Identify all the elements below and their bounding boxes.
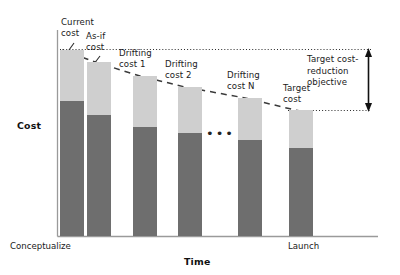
- bar-segment-lower: [133, 127, 157, 236]
- bar-as-if-cost[interactable]: [87, 62, 111, 236]
- bar-segment-lower: [238, 140, 262, 236]
- bar-target-cost[interactable]: [289, 110, 313, 236]
- x-axis-title: Time: [184, 256, 211, 267]
- x-axis-end-label: Launch: [288, 241, 319, 251]
- bar-segment-upper: [178, 87, 202, 133]
- bar-drifting-cost-n[interactable]: [238, 98, 262, 236]
- bar-segment-lower: [289, 148, 313, 236]
- bar-segment-lower: [178, 133, 202, 236]
- bar-segment-lower: [87, 115, 111, 236]
- bar-segment-upper: [60, 50, 84, 101]
- bar-label-as-if-cost: As-if cost: [86, 31, 105, 52]
- chart-canvas: ••• Current cost As-if cost Drifting cos…: [0, 0, 400, 275]
- ellipsis-marker: •••: [206, 126, 235, 141]
- bar-current-cost[interactable]: [60, 50, 84, 236]
- x-axis-start-label: Conceptualize: [10, 241, 71, 251]
- bar-label-drifting-cost-1: Drifting cost 1: [119, 48, 152, 69]
- bar-drifting-cost-1[interactable]: [133, 76, 157, 236]
- bar-segment-upper: [87, 62, 111, 115]
- bar-drifting-cost-2[interactable]: [178, 87, 202, 236]
- bar-segment-upper: [289, 110, 313, 148]
- bar-segment-lower: [60, 101, 84, 236]
- y-axis-title: Cost: [17, 120, 41, 131]
- bar-segment-upper: [238, 98, 262, 140]
- bar-segment-upper: [133, 76, 157, 127]
- bar-label-drifting-cost-n: Drifting cost N: [227, 70, 260, 91]
- annotation-target-cost-reduction-objective: Target cost- reduction objective: [307, 54, 358, 89]
- bar-label-drifting-cost-2: Drifting cost 2: [165, 59, 198, 80]
